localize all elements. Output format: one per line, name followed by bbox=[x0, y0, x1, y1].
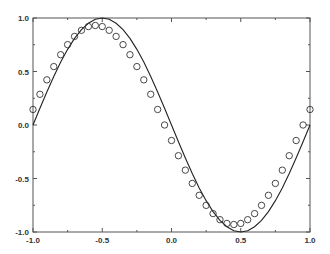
sample-point bbox=[120, 41, 126, 47]
sample-point bbox=[154, 106, 160, 112]
x-tick-label: 0.5 bbox=[235, 236, 247, 245]
y-tick-label: 0.0 bbox=[18, 121, 30, 130]
curve-series bbox=[33, 18, 310, 232]
sample-point bbox=[293, 137, 299, 143]
sample-point bbox=[113, 33, 119, 39]
sample-point bbox=[231, 221, 237, 227]
sample-point bbox=[44, 77, 50, 83]
sample-point bbox=[265, 192, 271, 198]
sample-point bbox=[64, 41, 70, 47]
sample-point bbox=[300, 122, 306, 128]
sample-point bbox=[224, 220, 230, 226]
x-tick-label: 1.0 bbox=[304, 236, 316, 245]
y-tick-label: 0.5 bbox=[18, 68, 30, 77]
y-tick-labels: 1.00.50.0-0.5-1.0 bbox=[15, 14, 29, 237]
sample-point bbox=[148, 91, 154, 97]
sample-point bbox=[258, 202, 264, 208]
curve-line bbox=[33, 18, 310, 232]
sample-point bbox=[51, 63, 57, 69]
sample-point bbox=[99, 23, 105, 29]
y-tick-label: 1.0 bbox=[18, 14, 30, 23]
sample-point bbox=[203, 202, 209, 208]
x-tick-label: -0.5 bbox=[95, 236, 109, 245]
sample-point bbox=[196, 192, 202, 198]
sample-point bbox=[106, 27, 112, 33]
sample-point bbox=[251, 210, 257, 216]
sample-point bbox=[141, 77, 147, 83]
sample-point bbox=[286, 153, 292, 159]
sample-point bbox=[85, 23, 91, 29]
sample-point bbox=[37, 91, 43, 97]
x-tick-label: -1.0 bbox=[26, 236, 40, 245]
sample-point bbox=[238, 220, 244, 226]
sample-point bbox=[272, 180, 278, 186]
sample-point bbox=[244, 216, 250, 222]
sample-point bbox=[161, 122, 167, 128]
sample-point bbox=[134, 63, 140, 69]
x-tick-label: 0.0 bbox=[166, 236, 178, 245]
sample-point bbox=[175, 153, 181, 159]
sample-point bbox=[92, 22, 98, 28]
chart: -1.0-0.50.00.51.0 1.00.50.0-0.5-1.0 bbox=[0, 0, 330, 254]
sample-point bbox=[182, 167, 188, 173]
y-tick-label: -0.5 bbox=[15, 175, 29, 184]
sample-point bbox=[168, 137, 174, 143]
sample-point bbox=[279, 167, 285, 173]
y-tick-label: -1.0 bbox=[15, 228, 29, 237]
sample-point bbox=[58, 52, 64, 58]
sample-point bbox=[127, 52, 133, 58]
x-tick-labels: -1.0-0.50.00.51.0 bbox=[26, 236, 316, 245]
sample-point bbox=[189, 180, 195, 186]
